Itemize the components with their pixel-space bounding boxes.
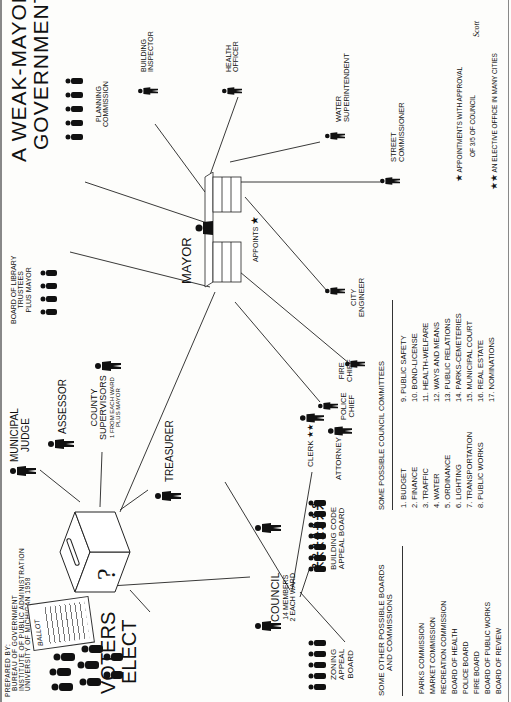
municipal-judge-line-1: MUNICIPAL: [10, 408, 21, 462]
municipal-judge-line-2: JUDGE: [21, 408, 32, 462]
police-chief-figure-icon: [318, 400, 338, 412]
committees-col-2: 9. PUBLIC SAFETY 10. BOND-LICENSE 11. HE…: [400, 313, 499, 402]
library-board-group-icon: [40, 262, 58, 317]
health-officer-figure-icon: [222, 85, 242, 97]
svg-text:?: ?: [92, 568, 121, 580]
city-engineer-label: CITY ENGINEER: [350, 278, 366, 317]
diagram-title: A WEAK-MAYOR GOVERNMENT: [8, 0, 52, 162]
double-star-icon: ★★: [489, 174, 499, 190]
legend-star-2-text: AN ELECTIVE OFFICE IN MANY CITIES: [491, 53, 498, 172]
council-figure-icon-2: [255, 522, 281, 534]
fire-chief-line-2: CHIEF: [346, 360, 354, 383]
credit-block: PREPARED BY: BUREAU OF GOVERNMENT INSTIT…: [5, 548, 32, 697]
treasurer-label: TREASURER: [165, 420, 176, 482]
city-engineer-line-2: ENGINEER: [358, 278, 366, 317]
board-item: BOARD OF REVIEW: [495, 601, 506, 694]
zoning-board-label: ZONING APPEAL BOARD: [330, 649, 355, 680]
star-icon: ★: [454, 174, 464, 182]
county-supervisors-label: COUNTY SUPERVISORS 1 FROM EACH WARD PLUS…: [90, 375, 121, 440]
planning-commission-group-icon: [65, 67, 85, 142]
fire-chief-label: FIRE CHIEF: [338, 360, 354, 383]
council-line-3: 2 EACH WARD: [289, 572, 296, 622]
mayor-label: MAYOR: [180, 237, 194, 284]
title-line-1: A WEAK-MAYOR: [8, 0, 30, 162]
boards-heading: SOME OTHER POSSIBLE BOARDS AND COMMISSIO…: [378, 564, 395, 696]
bottom-divider: [508, 0, 509, 702]
planning-commission-label: PLANNING COMMISSION: [95, 81, 110, 127]
appoints-text: APPOINTS: [252, 227, 259, 262]
board-item: MARKET COMMISSION: [429, 601, 440, 694]
water-superintendent-figure-icon: [325, 130, 345, 142]
library-line-3: PLUS MAYOR: [25, 256, 32, 324]
title-line-2: GOVERNMENT: [30, 0, 52, 162]
council-label: COUNCIL 14 MEMBERS 2 EACH WARD: [270, 572, 296, 622]
committees-heading: SOME POSSIBLE COUNCIL COMMITTEES: [378, 361, 386, 510]
county-supervisors-line-4: PLUS MAYOR: [115, 375, 121, 440]
street-line-2: COMMISSIONER: [398, 102, 406, 162]
voters-elect-label: VOTERS ELECT: [98, 612, 140, 694]
legend-star-2: ★★ AN ELECTIVE OFFICE IN MANY CITIES: [490, 53, 499, 190]
board-item: BOARD OF HEALTH: [451, 601, 462, 694]
council-line-2: 14 MEMBERS: [282, 572, 289, 622]
municipal-judge-figure-icon: [10, 465, 36, 477]
planning-line-1: PLANNING: [95, 81, 102, 127]
building-inspector-figure-icon: [138, 85, 158, 97]
legend-star-1: ★ APPOINTMENTS WITH APPROVAL OF 3/5 OF C…: [455, 67, 477, 182]
building-inspector-line-1: BUILDING: [140, 31, 147, 72]
health-officer-line-2: OFFICER: [232, 41, 239, 72]
boards-heading-2: AND COMMISSIONS: [386, 564, 394, 696]
building-code-board-label: BUILDING CODE APPEAL BOARD: [330, 507, 347, 570]
building-inspector-label: BUILDING INSPECTOR: [140, 31, 155, 72]
police-chief-line-2: CHIEF: [348, 392, 356, 420]
artist-signature: Scott: [473, 21, 481, 37]
street-commissioner-figure-icon: [380, 175, 400, 187]
appoints-star-icon: ★: [249, 216, 260, 225]
legend-star-1-text-2: OF 3/5 OF COUNCIL: [470, 67, 477, 182]
board-item: BOARD OF PUBLIC WORKS: [484, 601, 495, 694]
ballot-box-icon: ?: [55, 502, 135, 602]
health-officer-label: HEALTH OFFICER: [225, 41, 240, 72]
police-chief-label: POLICE CHIEF: [340, 392, 356, 420]
municipal-judge-label: MUNICIPAL JUDGE: [10, 408, 31, 462]
library-line-1: BOARD OF LIBRARY: [10, 256, 17, 324]
ballot-label: BALLOT: [33, 619, 44, 647]
board-item: PARKS COMMISSION: [418, 601, 429, 694]
legend-star-1-text-1: APPOINTMENTS WITH APPROVAL: [456, 67, 463, 173]
clerk-star-icon: ★★: [306, 424, 315, 438]
library-line-2: TRUSTEES: [17, 256, 24, 324]
library-board-label: BOARD OF LIBRARY TRUSTEES PLUS MAYOR: [10, 256, 32, 324]
board-item: POLICE BOARD: [462, 601, 473, 694]
building-code-board-group-icon: [308, 494, 328, 574]
county-supervisors-figure-icon: [95, 360, 121, 372]
treasurer-figure-icon: [155, 490, 181, 502]
weak-mayor-government-diagram: A WEAK-MAYOR GOVERNMENT PREPARED BY: BUR…: [0, 0, 511, 702]
voters-text: VOTERS: [98, 612, 119, 694]
committees-col-1: 1. BUDGET 2. FINANCE 3. TRAFFIC 4. WATER…: [400, 432, 488, 508]
boards-divider: [402, 546, 403, 696]
health-officer-line-1: HEALTH: [225, 41, 232, 72]
clerk-label: CLERK ★★: [307, 424, 315, 467]
clerk-text: CLERK: [306, 440, 315, 467]
building-inspector-line-2: INSPECTOR: [147, 31, 154, 72]
water-line-2: SUPERINTENDENT: [343, 53, 351, 122]
committees-divider: [392, 300, 393, 510]
ballot-lines: [43, 602, 90, 644]
city-engineer-figure-icon: [325, 285, 345, 297]
county-supervisors-line-2: SUPERVISORS: [99, 375, 108, 440]
elect-text: ELECT: [119, 612, 140, 694]
committee-item: 8. PUBLIC WORKS: [477, 432, 488, 508]
assessor-figure-icon: [48, 438, 74, 450]
planning-line-2: COMMISSION: [102, 81, 109, 127]
board-item: RECREATION COMMISSION: [440, 601, 451, 694]
ballot-paper: BALLOT: [27, 596, 95, 651]
water-superintendent-label: WATER SUPERINTENDENT: [335, 53, 351, 122]
board-item: FIRE BOARD: [473, 601, 484, 694]
building-code-line-2: APPEAL BOARD: [338, 507, 346, 570]
zoning-line-3: BOARD: [347, 649, 355, 680]
street-commissioner-label: STREET COMMISSIONER: [390, 102, 406, 162]
zoning-board-group-icon: [308, 632, 328, 692]
attorney-label: ATTORNEY: [335, 437, 343, 480]
council-line-1: COUNCIL: [270, 572, 282, 622]
attorney-figure-icon: [328, 425, 352, 437]
boards-list: PARKS COMMISSION MARKET COMMISSION RECRE…: [418, 601, 506, 694]
